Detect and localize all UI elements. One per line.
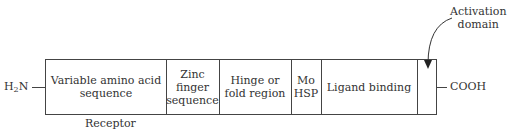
arrow-icon bbox=[0, 0, 508, 130]
